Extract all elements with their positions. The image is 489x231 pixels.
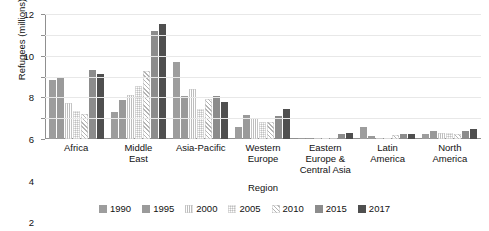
y-axis-tick-label: 12 <box>23 9 34 20</box>
bar-2000 <box>127 95 134 139</box>
y-axis-tick: 8 <box>41 56 45 57</box>
bar-1995 <box>306 138 313 139</box>
bar-2015 <box>275 116 282 139</box>
bar-1995 <box>368 136 375 139</box>
bar-2017 <box>97 74 104 139</box>
legend-swatch-icon <box>99 205 107 213</box>
x-axis-title: Region <box>45 182 481 193</box>
bar-1990 <box>422 134 429 139</box>
plot-area: 024681012 <box>45 14 481 139</box>
bar-2005 <box>384 138 391 139</box>
legend-swatch-icon <box>228 205 236 213</box>
legend-label: 1990 <box>110 203 131 214</box>
gridline <box>45 56 481 57</box>
x-axis-category-label: Latin America <box>356 142 418 175</box>
bar-2005 <box>259 122 266 139</box>
refugees-by-region-bar-chart: Refugees (millions) 024681012 AfricaMidd… <box>0 0 489 231</box>
bar-2000 <box>65 103 72 139</box>
y-axis-tick-label: 6 <box>29 134 34 145</box>
bar-2017 <box>221 102 228 140</box>
x-axis-category-label: Western Europe <box>232 142 294 175</box>
bar-2005 <box>446 133 453 139</box>
bar-2000 <box>314 138 321 139</box>
legend-item-1990[interactable]: 1990 <box>99 203 131 214</box>
plot-inner: 024681012 <box>45 14 481 139</box>
legend-swatch-icon <box>142 205 150 213</box>
bar-2015 <box>462 131 469 139</box>
bar-2010 <box>454 134 461 139</box>
bar-1995 <box>57 78 64 139</box>
legend-item-2005[interactable]: 2005 <box>228 203 260 214</box>
gridline <box>45 14 481 15</box>
legend-swatch-icon <box>185 205 193 213</box>
bar-2010 <box>267 122 274 139</box>
bar-2005 <box>135 86 142 139</box>
bar-2000 <box>376 138 383 139</box>
y-axis-tick: 4 <box>41 97 45 98</box>
y-axis-tick: 0 <box>41 139 45 140</box>
bar-1990 <box>173 62 180 139</box>
y-axis-tick: 2 <box>41 118 45 119</box>
bar-1995 <box>430 131 437 139</box>
bar-1990 <box>49 80 56 139</box>
y-axis-tick-label: 4 <box>29 175 34 186</box>
legend-label: 2005 <box>239 203 260 214</box>
bar-1990 <box>298 138 305 139</box>
bar-2010 <box>143 71 150 139</box>
legend-label: 2000 <box>196 203 217 214</box>
legend-item-2010[interactable]: 2010 <box>272 203 304 214</box>
legend-label: 1995 <box>153 203 174 214</box>
bar-1990 <box>235 127 242 140</box>
bar-2015 <box>151 31 158 139</box>
legend-swatch-icon <box>315 205 323 213</box>
bar-2015 <box>400 134 407 139</box>
y-axis-tick-label: 8 <box>29 92 34 103</box>
x-axis-category-label: Asia-Pacific <box>170 142 232 175</box>
y-axis-tick-label: 2 <box>29 217 34 228</box>
bar-2010 <box>330 138 337 139</box>
gridline <box>45 97 481 98</box>
legend-item-1995[interactable]: 1995 <box>142 203 174 214</box>
legend-item-2017[interactable]: 2017 <box>358 203 390 214</box>
bar-1990 <box>111 112 118 139</box>
legend-label: 2017 <box>369 203 390 214</box>
bar-2010 <box>392 135 399 139</box>
y-axis-tick: 6 <box>41 77 45 78</box>
y-axis-tick: 10 <box>41 35 45 36</box>
legend-item-2015[interactable]: 2015 <box>315 203 347 214</box>
bar-2015 <box>89 70 96 139</box>
bar-1995 <box>119 100 126 139</box>
gridline <box>45 77 481 78</box>
x-axis-category-label: Middle East <box>107 142 169 175</box>
bar-2015 <box>338 134 345 139</box>
gridline <box>45 35 481 36</box>
bar-2017 <box>470 129 477 139</box>
bar-1990 <box>360 127 367 140</box>
legend-label: 2015 <box>326 203 347 214</box>
x-axis-category-label: Africa <box>45 142 107 175</box>
bar-2017 <box>283 109 290 139</box>
legend-swatch-icon <box>358 205 366 213</box>
x-axis-category-label: North America <box>419 142 481 175</box>
bar-2000 <box>251 118 258 139</box>
x-axis-category-label: Eastern Europe & Central Asia <box>294 142 356 175</box>
gridline <box>45 118 481 119</box>
legend-label: 2010 <box>283 203 304 214</box>
y-axis-tick: 12 <box>41 14 45 15</box>
y-axis-tick-label: 10 <box>23 50 34 61</box>
bar-2017 <box>346 133 353 139</box>
bar-2005 <box>73 111 80 139</box>
x-axis-category-labels: AfricaMiddle EastAsia-PacificWestern Eur… <box>45 142 481 175</box>
bar-2000 <box>438 133 445 139</box>
bar-2017 <box>408 134 415 139</box>
legend-swatch-icon <box>272 205 280 213</box>
bar-2005 <box>322 138 329 139</box>
legend-item-2000[interactable]: 2000 <box>185 203 217 214</box>
bar-2005 <box>197 109 204 139</box>
bar-2010 <box>205 99 212 139</box>
bar-2017 <box>159 24 166 139</box>
legend: 1990199520002005201020152017 <box>0 203 489 214</box>
